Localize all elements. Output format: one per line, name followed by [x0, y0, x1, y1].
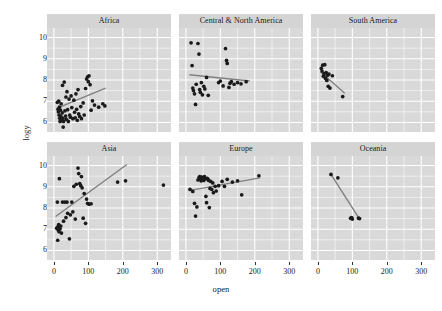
x-tick-mark [318, 262, 319, 265]
x-tick-label: 300 [283, 268, 295, 276]
data-point [225, 62, 229, 66]
data-point [223, 185, 227, 189]
x-tick-mark [255, 262, 256, 265]
data-point [336, 176, 340, 180]
data-point [210, 187, 214, 191]
data-point [70, 200, 74, 204]
x-tick-label: 200 [117, 268, 129, 276]
data-point [225, 177, 229, 181]
data-point [74, 182, 78, 186]
data-point [193, 92, 197, 96]
data-point [61, 125, 65, 129]
data-point [85, 197, 89, 201]
facet-panel-oceania: Oceania [311, 142, 435, 260]
data-point [358, 217, 362, 221]
data-point [64, 95, 68, 99]
data-point [192, 89, 196, 93]
data-point [232, 82, 236, 86]
x-axis-segment: 0100200300 [311, 262, 435, 280]
data-point [80, 117, 84, 121]
data-point [239, 82, 243, 86]
data-point [231, 180, 235, 184]
data-point [72, 98, 76, 102]
x-tick-mark [157, 262, 158, 265]
data-point [68, 237, 72, 241]
data-point [61, 83, 65, 87]
data-point [79, 105, 83, 109]
data-point [73, 217, 77, 221]
data-point [75, 107, 79, 111]
y-tick-label: 9 [29, 183, 47, 191]
data-point [56, 238, 60, 242]
data-point [227, 86, 231, 90]
data-point [82, 192, 86, 196]
data-point [221, 84, 225, 88]
y-tick-label: 6 [29, 118, 47, 126]
data-point [213, 185, 217, 189]
x-tick-label: 0 [52, 268, 56, 276]
data-point [70, 106, 74, 110]
data-point [195, 205, 199, 209]
data-points [189, 41, 248, 106]
data-point [189, 41, 193, 45]
data-point [200, 81, 204, 85]
plot-area [311, 156, 435, 260]
data-point [67, 97, 71, 101]
data-point [82, 113, 86, 117]
data-point [196, 42, 200, 46]
y-tick-label: 10 [29, 162, 47, 170]
y-tick-label: 7 [29, 97, 47, 105]
data-point [217, 184, 221, 188]
plot-area [179, 28, 303, 132]
data-point [190, 64, 194, 68]
x-tick-mark [387, 262, 388, 265]
data-point [103, 104, 107, 108]
data-point [65, 200, 69, 204]
plot-area [47, 28, 171, 132]
data-point [193, 201, 197, 205]
data-point [65, 90, 69, 94]
data-point [240, 193, 244, 197]
x-axis-title: open [0, 284, 442, 294]
data-point [205, 201, 209, 205]
data-point [201, 93, 205, 97]
facet-strip-label: Europe [229, 145, 252, 153]
x-tick-mark [352, 262, 353, 265]
data-point [205, 76, 209, 80]
x-tick-label: 300 [415, 268, 427, 276]
data-point [58, 177, 62, 181]
facet-panel-europe: Europe [179, 142, 303, 260]
data-point [76, 166, 80, 170]
y-tick-label: 7 [29, 225, 47, 233]
facet-strip-label: Asia [102, 145, 117, 153]
facet-strip: Europe [179, 142, 303, 156]
y-tick-label: 8 [29, 76, 47, 84]
data-point [74, 92, 78, 96]
data-point [257, 174, 261, 178]
facet-strip: Central & North America [179, 14, 303, 28]
data-point [220, 180, 224, 184]
data-point [69, 94, 73, 98]
facet-strip: Oceania [311, 142, 435, 156]
chart-figure: logy 678910678910 AfricaCentral & North … [0, 0, 442, 311]
y-axis: 678910678910 [22, 14, 47, 260]
data-point [89, 202, 93, 206]
plot-area [311, 28, 435, 132]
data-point [197, 52, 201, 56]
data-point [81, 216, 85, 220]
data-point [64, 216, 68, 220]
data-point [59, 102, 63, 106]
data-point [214, 189, 218, 193]
data-point [350, 217, 354, 221]
data-point [87, 74, 91, 78]
data-point [331, 74, 335, 78]
data-point [88, 83, 92, 87]
data-point [97, 105, 101, 109]
facet-panel-grid: AfricaCentral & North AmericaSouth Ameri… [47, 14, 435, 260]
data-point [323, 63, 327, 67]
x-tick-label: 0 [184, 268, 188, 276]
data-point [191, 190, 195, 194]
y-tick-label: 9 [29, 55, 47, 63]
x-tick-label: 100 [82, 268, 94, 276]
x-tick-label: 0 [316, 268, 320, 276]
